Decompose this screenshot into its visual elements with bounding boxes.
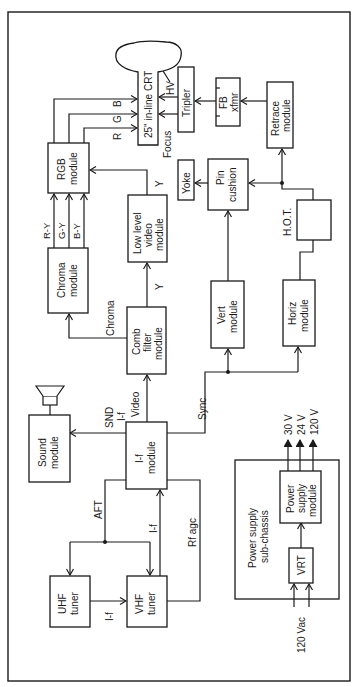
label-video: Video bbox=[130, 391, 141, 417]
tripler-label: Tripler bbox=[181, 88, 192, 117]
cushion-label: cushion bbox=[227, 168, 238, 202]
vhf-label-1: VHF bbox=[134, 594, 145, 614]
label-snd: SND bbox=[104, 407, 115, 428]
label-hot: H.O.T. bbox=[282, 208, 293, 236]
comb-label-3: module bbox=[153, 327, 164, 360]
low-level-label-3: module bbox=[154, 218, 165, 251]
fb-xfmr-block: FB xfmr bbox=[216, 78, 240, 126]
uhf-tuner-block: UHF tuner bbox=[50, 576, 90, 627]
chroma-module-block: Chroma module bbox=[48, 248, 88, 313]
comb-label-2: filter bbox=[142, 332, 153, 352]
vhf-tuner-block: VHF tuner bbox=[127, 576, 167, 627]
label-30v: 30 V bbox=[283, 414, 294, 435]
tripler-block: Tripler bbox=[178, 67, 194, 132]
label-snd-if: I-f bbox=[116, 412, 127, 421]
horiz-module-block: Horiz module bbox=[283, 280, 315, 346]
rgb-label-2: module bbox=[68, 152, 79, 185]
label-if-uhf: I-f bbox=[104, 612, 115, 621]
label-24v: 24 V bbox=[296, 414, 307, 435]
speaker-icon bbox=[36, 386, 64, 405]
horiz-label-2: module bbox=[299, 299, 310, 332]
retrace-label-2: module bbox=[281, 99, 292, 132]
horiz-label-1: Horiz bbox=[287, 302, 298, 325]
label-r-y: R-Y bbox=[41, 222, 52, 239]
label-focus: Focus bbox=[162, 131, 173, 158]
yoke-block: Yoke bbox=[178, 160, 194, 200]
label-r: R bbox=[112, 133, 123, 140]
power-label-1: Power bbox=[285, 484, 296, 513]
subchassis-label-2: sub-chassis bbox=[259, 510, 270, 563]
uhf-label-1: UHF bbox=[57, 593, 68, 614]
rgb-module-block: RGB module bbox=[48, 143, 89, 193]
vert-label-1: Vert bbox=[216, 306, 227, 324]
sound-label-1: Sound bbox=[37, 438, 48, 467]
label-sync: Sync bbox=[197, 398, 208, 420]
hot-block bbox=[297, 200, 331, 240]
power-label-2: supply bbox=[296, 484, 307, 513]
pin-label: Pin bbox=[215, 171, 226, 185]
vrt-block: VRT bbox=[289, 548, 313, 583]
vert-label-2: module bbox=[228, 300, 239, 333]
low-level-label-2: video bbox=[143, 223, 154, 247]
rgb-label-1: RGB bbox=[56, 158, 67, 180]
vhf-label-2: tuner bbox=[146, 592, 157, 615]
if-label-2: module bbox=[146, 441, 157, 474]
xfmr-label: xfmr bbox=[229, 92, 240, 112]
label-b-y: B-Y bbox=[71, 223, 82, 240]
power-supply-module-block: Power supply module bbox=[280, 471, 321, 523]
label-y-comb: Y bbox=[154, 283, 165, 290]
comb-filter-block: Comb filter module bbox=[127, 307, 166, 374]
if-label-1: I-f bbox=[134, 454, 145, 463]
tv-block-diagram: 25" in-line CRT Tripler FB xfmr Retrace … bbox=[0, 0, 354, 687]
label-rf-agc: Rf agc bbox=[187, 518, 198, 547]
subchassis-label-1: Power supply bbox=[247, 508, 258, 568]
low-level-label-1: Low level bbox=[132, 212, 143, 254]
label-if-vhf: I-f bbox=[148, 524, 159, 533]
label-b: B bbox=[112, 100, 123, 107]
label-y-top: Y bbox=[154, 180, 165, 187]
power-label-3: module bbox=[307, 484, 318, 517]
crt-label: 25" in-line CRT bbox=[143, 71, 154, 138]
sound-module-block: Sound module bbox=[29, 415, 70, 482]
uhf-label-2: tuner bbox=[69, 592, 80, 615]
retrace-module-block: Retrace module bbox=[267, 82, 293, 148]
label-120vac: 120 Vac bbox=[296, 617, 307, 653]
label-120v: 120 V bbox=[309, 409, 320, 435]
pin-cushion-block: Pin cushion bbox=[208, 159, 248, 210]
vrt-label: VRT bbox=[296, 555, 307, 575]
if-module-block: I-f module bbox=[126, 422, 167, 489]
label-g: G bbox=[112, 115, 123, 123]
label-chroma: Chroma bbox=[105, 300, 116, 336]
label-aft: AFT bbox=[93, 500, 104, 519]
chroma-label-1: Chroma bbox=[56, 262, 67, 298]
comb-label-1: Comb bbox=[131, 328, 142, 355]
fb-label: FB bbox=[218, 96, 229, 109]
vert-module-block: Vert module bbox=[211, 281, 244, 348]
low-level-video-block: Low level video module bbox=[128, 195, 167, 262]
yoke-label: Yoke bbox=[181, 172, 192, 194]
retrace-label-1: Retrace bbox=[270, 101, 281, 136]
label-hv: HV bbox=[165, 81, 176, 95]
sound-label-2: module bbox=[49, 436, 60, 469]
label-g-y: G-Y bbox=[56, 221, 67, 239]
chroma-label-2: module bbox=[68, 264, 79, 297]
